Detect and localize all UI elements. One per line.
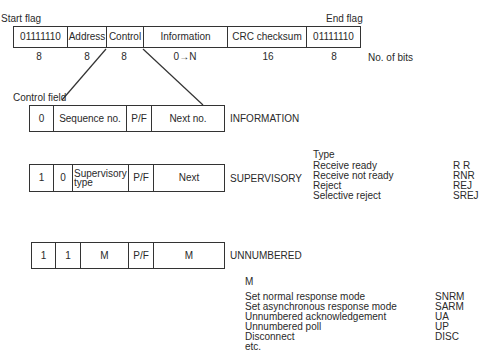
start-flag-label: Start flag bbox=[1, 13, 41, 24]
frame-field-information: Information bbox=[144, 27, 228, 47]
sup-pf: P/F bbox=[129, 165, 154, 191]
unn-bit-1a: 1 bbox=[32, 243, 56, 268]
bits-start-flag: 8 bbox=[27, 51, 51, 62]
unn-m-2: M bbox=[154, 243, 224, 268]
unnumbered-format: 1 1 M P/F M bbox=[31, 242, 225, 269]
frame-field-control: Control bbox=[107, 27, 144, 47]
supervisory-type-heading: Type bbox=[313, 149, 479, 160]
hdlc-frame: 01111110 Address Control Information CRC… bbox=[13, 26, 361, 48]
end-flag-label: End flag bbox=[326, 13, 363, 24]
supervisory-type-row: Selective reject SREJ bbox=[313, 191, 479, 201]
frame-field-crc: CRC checksum bbox=[228, 27, 307, 47]
unn-pf: P/F bbox=[129, 243, 154, 268]
unnumbered-format-label: UNNUMBERED bbox=[230, 250, 302, 261]
unn-bit-1b: 1 bbox=[56, 243, 81, 268]
unnumbered-m-heading: M bbox=[245, 276, 464, 287]
info-bit-0: 0 bbox=[30, 106, 54, 131]
control-field-label: Control field bbox=[13, 92, 66, 103]
sup-type: Supervisory type bbox=[73, 165, 129, 191]
supervisory-type-table: Type Receive ready R R Receive not ready… bbox=[313, 149, 479, 201]
bits-address: 8 bbox=[75, 51, 99, 62]
frame-field-start-flag: 01111110 bbox=[14, 27, 68, 47]
unnumbered-m-row: etc. bbox=[245, 342, 464, 352]
information-format: 0 Sequence no. P/F Next no. bbox=[29, 105, 225, 132]
frame-field-address: Address bbox=[68, 27, 107, 47]
bits-end-flag: 8 bbox=[322, 51, 346, 62]
info-sequence-no: Sequence no. bbox=[54, 106, 127, 131]
unnumbered-m-table: M Set normal response mode SNRM Set asyn… bbox=[245, 276, 464, 352]
sup-bit-0: 0 bbox=[54, 165, 73, 191]
sup-bit-1: 1 bbox=[30, 165, 54, 191]
frame-field-end-flag: 01111110 bbox=[307, 27, 360, 47]
bits-label: No. of bits bbox=[368, 52, 413, 63]
unn-m-1: M bbox=[81, 243, 129, 268]
supervisory-format-label: SUPERVISORY bbox=[230, 173, 302, 184]
info-next-no: Next no. bbox=[152, 106, 224, 131]
sup-next: Next bbox=[154, 165, 224, 191]
info-pf: P/F bbox=[127, 106, 152, 131]
bits-information: 0→N bbox=[165, 51, 205, 62]
supervisory-format: 1 0 Supervisory type P/F Next bbox=[29, 164, 225, 192]
unnumbered-m-row: Disconnect DISC bbox=[245, 332, 464, 342]
bits-crc: 16 bbox=[256, 51, 280, 62]
information-format-label: INFORMATION bbox=[230, 113, 299, 124]
bits-control: 8 bbox=[112, 51, 136, 62]
